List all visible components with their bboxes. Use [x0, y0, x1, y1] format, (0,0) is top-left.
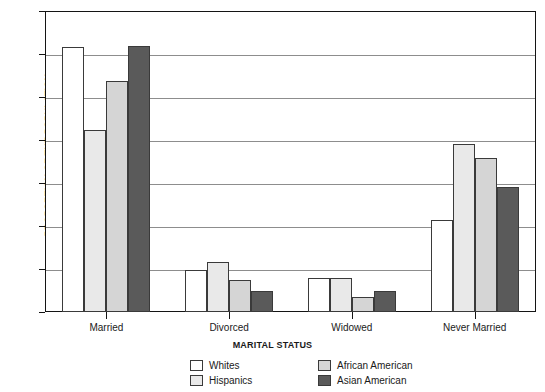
plot-area: [45, 11, 536, 312]
x-axis-category-label: Married: [46, 322, 166, 333]
x-axis-tick-mark: [229, 312, 230, 319]
legend-item: Whites: [190, 360, 318, 371]
gridline: [46, 270, 535, 271]
x-axis-category-label: Divorced: [169, 322, 289, 333]
legend-swatch-icon: [318, 360, 331, 371]
x-axis-category-label: Never Married: [415, 322, 535, 333]
legend-label: Hispanics: [209, 375, 252, 386]
legend-swatch-icon: [190, 375, 203, 386]
gridline: [46, 141, 535, 142]
x-axis-tick-mark: [352, 312, 353, 319]
legend-label: Asian American: [337, 375, 406, 386]
x-axis-tick-mark: [475, 312, 476, 319]
legend-swatch-icon: [318, 375, 331, 386]
x-axis-category-label: Widowed: [292, 322, 412, 333]
legend: WhitesAfrican AmericanHispanicsAsian Ame…: [190, 358, 480, 388]
legend-swatch-icon: [190, 360, 203, 371]
x-axis-title: MARITAL STATUS: [0, 340, 545, 350]
gridline: [46, 227, 535, 228]
legend-item: African American: [318, 360, 478, 371]
x-axis-tick-mark: [106, 312, 107, 319]
y-axis-tick-mark: [39, 312, 45, 313]
legend-item: Asian American: [318, 375, 478, 386]
legend-item: Hispanics: [190, 375, 318, 386]
legend-label: Whites: [209, 360, 240, 371]
gridline: [46, 184, 535, 185]
gridline: [46, 55, 535, 56]
gridline: [46, 98, 535, 99]
bar-chart-figure: PROPORTION OF THE POPULATION 01020304050…: [0, 0, 545, 392]
legend-label: African American: [337, 360, 413, 371]
